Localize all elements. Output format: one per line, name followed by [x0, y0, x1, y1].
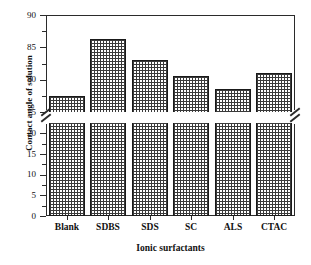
y-axis-tick-label: 80	[6, 75, 36, 84]
y-axis-major-tick	[40, 80, 46, 81]
y-axis-minor-tick	[42, 64, 46, 65]
bar-lower-sdbs	[90, 123, 126, 216]
x-axis-title: Ionic surfactants	[46, 243, 295, 253]
axis-break-band	[47, 112, 294, 123]
y-axis-minor-tick	[42, 206, 46, 207]
truncated-header-text	[0, 0, 311, 7]
bar-lower-als	[215, 123, 251, 216]
y-axis-minor-tick	[42, 31, 46, 32]
y-axis-tick-label: 0	[6, 212, 36, 221]
bar-als	[215, 89, 251, 112]
y-axis-tick-label: 90	[6, 11, 36, 20]
y-axis-minor-tick	[42, 185, 46, 186]
bar-ctac	[256, 73, 292, 112]
x-axis-tick	[150, 216, 151, 220]
y-axis-major-tick	[40, 175, 46, 176]
chart-figure: Contact angle of solution Ionic surfacta…	[0, 0, 311, 265]
y-axis-minor-tick	[42, 144, 46, 145]
y-axis-tick-label: 75	[6, 108, 36, 117]
x-axis-tick	[67, 216, 68, 220]
bar-lower-blank	[49, 123, 85, 216]
y-axis-tick-label: 15	[6, 150, 36, 159]
bar-sds	[132, 60, 168, 112]
bar-sdbs	[90, 39, 126, 112]
y-axis-major-tick	[40, 154, 46, 155]
y-axis-major-tick	[40, 216, 46, 217]
y-axis-tick-label: 20	[6, 129, 36, 138]
y-axis-major-tick	[40, 133, 46, 134]
y-axis-major-tick	[40, 112, 46, 113]
x-axis-tick	[108, 216, 109, 220]
y-axis-tick-label: 85	[6, 43, 36, 52]
y-axis-major-tick	[40, 15, 46, 16]
bar-lower-ctac	[256, 123, 292, 216]
y-axis-minor-tick	[42, 96, 46, 97]
bar-sc	[173, 76, 209, 112]
x-axis-tick-label-ctac: CTAC	[244, 222, 304, 232]
bar-lower-sds	[132, 123, 168, 216]
bar-lower-sc	[173, 123, 209, 216]
y-axis-major-tick	[40, 47, 46, 48]
y-axis-tick-label: 5	[6, 191, 36, 200]
bar-blank	[49, 96, 85, 112]
x-axis-tick	[191, 216, 192, 220]
x-axis-tick	[233, 216, 234, 220]
y-axis-major-tick	[40, 195, 46, 196]
y-axis-minor-tick	[42, 164, 46, 165]
y-axis-tick-label: 10	[6, 170, 36, 179]
x-axis-tick	[274, 216, 275, 220]
